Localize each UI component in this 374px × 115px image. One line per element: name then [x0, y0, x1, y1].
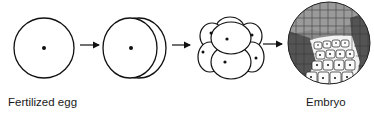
eight-cell-stage	[198, 17, 264, 79]
nucleus-dot	[42, 46, 46, 50]
fertilized-egg-label: Fertilized egg	[8, 96, 77, 108]
embryo-label: Embryo	[306, 96, 346, 108]
two-cell-stage	[103, 18, 166, 78]
embryo-sphere	[286, 0, 374, 90]
fertilized-egg-cell	[14, 18, 74, 78]
